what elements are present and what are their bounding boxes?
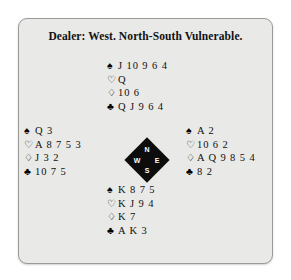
spade-icon: ♠: [107, 183, 118, 197]
east-diamonds-cards: A Q 9 8 5 4: [197, 151, 256, 165]
east-clubs-cards: 8 2: [197, 165, 213, 179]
south-hearts-row: ♡ K J 9 4: [107, 197, 156, 211]
compass-label-north: N: [142, 146, 152, 153]
east-spades-cards: A 2: [197, 124, 215, 138]
compass-label-east: E: [152, 157, 162, 164]
north-hearts-cards: Q: [118, 73, 126, 87]
south-spades-row: ♠ K 8 7 5: [107, 183, 156, 197]
spade-icon: ♠: [107, 59, 118, 73]
east-hearts-row: ♡ 10 6 2: [186, 138, 256, 152]
east-spades-row: ♠ A 2: [186, 124, 256, 138]
north-diamonds-row: ♢ 10 6: [107, 86, 168, 100]
west-hearts-cards: A 8 7 5 3: [35, 138, 82, 152]
compass-label-west: W: [132, 157, 142, 164]
hand-south: ♠ K 8 7 5 ♡ K J 9 4 ♢ K 7 ♣ A K 3: [107, 183, 156, 237]
south-clubs-row: ♣ A K 3: [107, 224, 156, 238]
spade-icon: ♠: [24, 124, 35, 138]
club-icon: ♣: [107, 224, 118, 238]
diamond-icon: ♢: [107, 210, 118, 224]
west-clubs-cards: 10 7 5: [35, 165, 67, 179]
east-hearts-cards: 10 6 2: [197, 138, 229, 152]
north-diamonds-cards: 10 6: [118, 86, 140, 100]
diamond-icon: ♢: [24, 151, 35, 165]
spade-icon: ♠: [186, 124, 197, 138]
bridge-deal-panel: Dealer: West. North-South Vulnerable. ♠ …: [18, 18, 273, 264]
club-icon: ♣: [107, 100, 118, 114]
compass-rose: N W E S: [125, 138, 169, 182]
north-spades-cards: J 10 9 6 4: [118, 59, 168, 73]
club-icon: ♣: [186, 165, 197, 179]
hand-west: ♠ Q 3 ♡ A 8 7 5 3 ♢ J 3 2 ♣ 10 7 5: [24, 124, 82, 178]
east-diamonds-row: ♢ A Q 9 8 5 4: [186, 151, 256, 165]
south-hearts-cards: K J 9 4: [118, 197, 154, 211]
hand-east: ♠ A 2 ♡ 10 6 2 ♢ A Q 9 8 5 4 ♣ 8 2: [186, 124, 256, 178]
north-clubs-cards: Q J 9 6 4: [118, 100, 164, 114]
west-hearts-row: ♡ A 8 7 5 3: [24, 138, 82, 152]
north-spades-row: ♠ J 10 9 6 4: [107, 59, 168, 73]
heart-icon: ♡: [107, 73, 118, 87]
east-clubs-row: ♣ 8 2: [186, 165, 256, 179]
north-clubs-row: ♣ Q J 9 6 4: [107, 100, 168, 114]
heart-icon: ♡: [24, 138, 35, 152]
west-clubs-row: ♣ 10 7 5: [24, 165, 82, 179]
compass-label-south: S: [142, 167, 152, 174]
deal-conditions-title: Dealer: West. North-South Vulnerable.: [19, 30, 272, 42]
west-spades-cards: Q 3: [35, 124, 53, 138]
club-icon: ♣: [24, 165, 35, 179]
south-spades-cards: K 8 7 5: [118, 183, 156, 197]
hand-north: ♠ J 10 9 6 4 ♡ Q ♢ 10 6 ♣ Q J 9 6 4: [107, 59, 168, 113]
west-diamonds-row: ♢ J 3 2: [24, 151, 82, 165]
south-diamonds-cards: K 7: [118, 210, 136, 224]
south-diamonds-row: ♢ K 7: [107, 210, 156, 224]
west-spades-row: ♠ Q 3: [24, 124, 82, 138]
heart-icon: ♡: [186, 138, 197, 152]
diamond-icon: ♢: [107, 86, 118, 100]
north-hearts-row: ♡ Q: [107, 73, 168, 87]
diamond-icon: ♢: [186, 151, 197, 165]
west-diamonds-cards: J 3 2: [35, 151, 59, 165]
south-clubs-cards: A K 3: [118, 224, 148, 238]
heart-icon: ♡: [107, 197, 118, 211]
